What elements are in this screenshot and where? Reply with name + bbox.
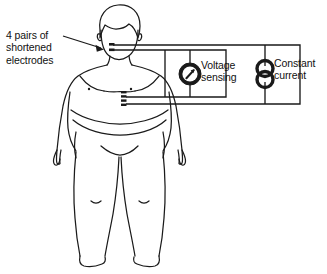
chest-center-line xyxy=(104,91,135,92)
knee-right xyxy=(139,201,149,203)
foot-right xyxy=(134,256,160,266)
neck-right xyxy=(129,56,132,65)
waist-band-upper xyxy=(71,110,168,124)
knee-left xyxy=(91,201,101,203)
leg-left-inner xyxy=(105,157,119,256)
nipple-left xyxy=(88,88,90,90)
leg-right-inner xyxy=(121,157,135,256)
body-right-outline xyxy=(132,65,183,164)
electrode-waist-4 xyxy=(121,104,127,106)
hair-outline xyxy=(100,5,140,38)
electrode-waist-2 xyxy=(121,95,127,97)
leg-right-outer xyxy=(159,152,165,256)
voltage-sensing-meter xyxy=(179,63,201,85)
electrodes-label: 4 pairs of shortened electrodes xyxy=(6,29,53,66)
electrode-group xyxy=(109,43,127,106)
electrode-neck-lower xyxy=(109,49,115,52)
voltage-sensing-label: Voltage sensing xyxy=(201,59,237,84)
neck-left xyxy=(107,56,110,65)
crotch-line xyxy=(101,146,138,155)
electrode-waist-1 xyxy=(121,91,127,93)
electrode-neck-upper xyxy=(109,43,115,46)
body-left-outline xyxy=(56,65,107,164)
waist-band-lower xyxy=(73,120,166,135)
body-outline-group xyxy=(54,5,186,266)
chest-contour-right xyxy=(135,76,159,91)
constant-current-label: Constant current xyxy=(274,57,315,82)
electrode-waist-3 xyxy=(121,99,127,101)
leg-left-outer xyxy=(74,152,80,256)
chest-contour-left xyxy=(80,76,104,91)
foot-left xyxy=(80,256,106,266)
diagram-canvas: 4 pairs of shortened electrodes Voltage … xyxy=(0,0,327,274)
nipple-right xyxy=(130,88,132,90)
